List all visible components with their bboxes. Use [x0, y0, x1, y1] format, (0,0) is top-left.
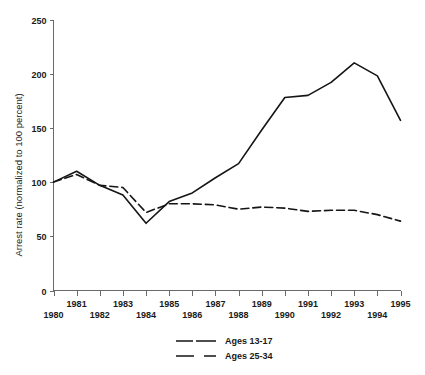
series-ages-13-17 — [54, 63, 401, 223]
x-tick-label: 1994 — [367, 310, 387, 320]
chart-container: Arrest rate (normalized to 100 percent) … — [0, 0, 425, 375]
y-axis-ticks — [50, 21, 54, 292]
y-tick-label: 250 — [31, 16, 46, 26]
x-tick-label: 1988 — [229, 310, 249, 320]
x-axis-tick-labels-lower: 19801982198419861988199019921994 — [43, 310, 387, 320]
x-tick-label: 1983 — [113, 299, 133, 309]
y-axis-title: Arrest rate (normalized to 100 percent) — [13, 93, 24, 256]
legend-item-ages-25-34: Ages 25-34 — [176, 351, 273, 361]
x-tick-label: 1981 — [67, 299, 87, 309]
legend-item-ages-13-17: Ages 13-17 — [176, 336, 273, 346]
x-axis-ticks — [55, 291, 402, 296]
x-tick-label: 1987 — [205, 299, 225, 309]
x-tick-label: 1982 — [90, 310, 110, 320]
series-ages-25-34 — [54, 175, 401, 222]
y-tick-label: 50 — [36, 232, 46, 242]
y-tick-label: 0 — [41, 287, 46, 297]
x-axis-tick-labels-upper: 19811983198519871989199119931995 — [67, 299, 411, 309]
x-tick-label: 1992 — [321, 310, 341, 320]
x-tick-label: 1989 — [252, 299, 272, 309]
x-tick-label: 1995 — [390, 299, 410, 309]
line-chart: Arrest rate (normalized to 100 percent) … — [0, 0, 425, 375]
x-tick-label: 1993 — [344, 299, 364, 309]
y-tick-label: 200 — [31, 70, 46, 80]
x-tick-label: 1991 — [298, 299, 318, 309]
y-tick-label: 100 — [31, 178, 46, 188]
x-tick-label: 1986 — [182, 310, 202, 320]
chart-legend: Ages 13-17Ages 25-34 — [176, 336, 273, 361]
legend-label: Ages 13-17 — [225, 336, 273, 346]
legend-label: Ages 25-34 — [225, 351, 273, 361]
data-series-group — [54, 63, 401, 223]
x-tick-label: 1985 — [159, 299, 179, 309]
x-tick-label: 1990 — [275, 310, 295, 320]
x-tick-label: 1980 — [43, 310, 63, 320]
y-axis-tick-labels: 050100150200250 — [31, 16, 46, 297]
y-tick-label: 150 — [31, 124, 46, 134]
x-tick-label: 1984 — [136, 310, 156, 320]
